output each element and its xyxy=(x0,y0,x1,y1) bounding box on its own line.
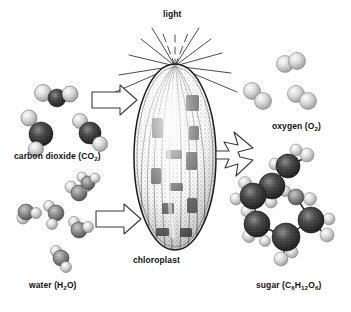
sugar-subscript-oxygen: 6 xyxy=(315,284,319,291)
label-carbon-dioxide: carbon dioxide (CO2) xyxy=(14,152,101,161)
chloroplast-organelle xyxy=(134,64,216,250)
water-molecules xyxy=(17,172,100,273)
label-chloroplast: chloroplast xyxy=(133,256,180,265)
oxygen-molecules xyxy=(244,53,317,110)
label-oxygen: oxygen (O2) xyxy=(272,122,321,131)
oxygen-subscript: 2 xyxy=(314,125,318,132)
co2-subscript: 2 xyxy=(94,155,98,162)
arrow-water-into-chloroplast xyxy=(96,204,141,234)
label-sugar: sugar (C6H12O6) xyxy=(256,281,321,290)
label-water: water (H2O) xyxy=(29,281,77,290)
forked-arrow-products xyxy=(216,132,253,176)
sugar-subscript-hydrogen: 12 xyxy=(301,284,308,291)
water-subscript: 2 xyxy=(63,284,67,291)
label-light: light xyxy=(163,10,181,19)
sugar-subscript-carbon: 6 xyxy=(291,284,295,291)
arrow-co2-into-chloroplast xyxy=(92,85,137,115)
photosynthesis-diagram: light carbon dioxide (CO2) water (H2O) c… xyxy=(0,0,351,312)
